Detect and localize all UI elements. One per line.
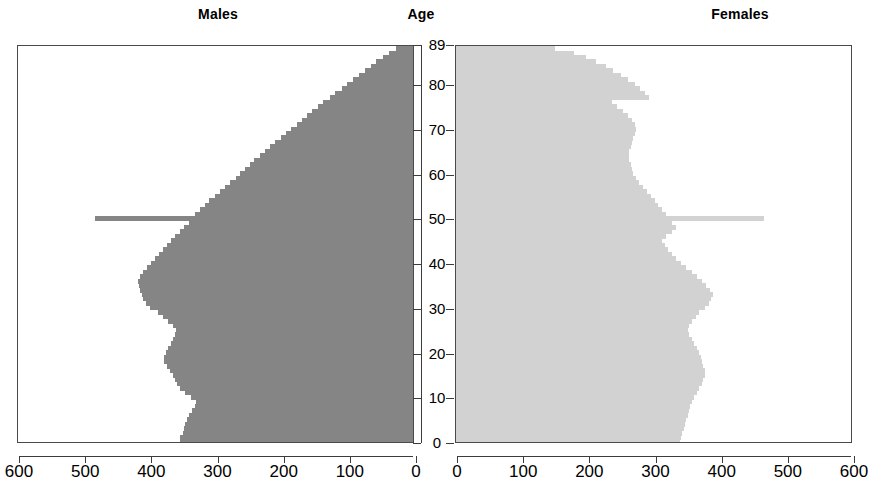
bar <box>456 64 606 69</box>
bar <box>220 189 413 194</box>
bar <box>456 189 647 194</box>
bar <box>189 413 413 418</box>
bar <box>371 64 413 69</box>
age-tick-label: 80 <box>425 77 449 92</box>
bar <box>456 288 710 293</box>
bar <box>192 408 413 413</box>
bar <box>456 68 613 73</box>
bar <box>456 113 628 118</box>
bar <box>456 319 692 324</box>
age-tick-label: 70 <box>425 122 449 137</box>
bar <box>456 332 689 337</box>
x-tick-label: 100 <box>493 462 553 482</box>
bar <box>456 243 665 248</box>
bar <box>456 86 640 91</box>
bar <box>376 59 413 64</box>
bar <box>456 305 705 310</box>
bar <box>456 283 706 288</box>
x-tick-label: 400 <box>121 462 181 482</box>
bar <box>359 73 413 78</box>
bar <box>151 261 413 266</box>
bar <box>456 225 676 230</box>
bar <box>456 408 689 413</box>
bar <box>456 46 535 47</box>
bar <box>183 431 413 436</box>
bar <box>225 185 413 190</box>
bar <box>456 314 696 319</box>
bar <box>147 265 413 270</box>
x-tick-label: 100 <box>320 462 380 482</box>
bar <box>456 82 635 87</box>
bar <box>139 283 413 288</box>
bar <box>184 225 413 230</box>
bar <box>180 229 413 234</box>
x-tick-label: 500 <box>758 462 818 482</box>
bar <box>270 144 413 149</box>
bar <box>456 77 628 82</box>
bar <box>185 390 413 395</box>
bar <box>312 109 413 114</box>
bar <box>143 270 413 275</box>
bar <box>456 73 621 78</box>
bar <box>456 341 694 346</box>
bar <box>456 180 639 185</box>
bar <box>330 95 413 100</box>
bar <box>456 55 586 60</box>
bar <box>456 368 705 373</box>
bar <box>163 314 413 319</box>
bar <box>456 252 672 257</box>
bar <box>456 185 643 190</box>
age-tick-label: 40 <box>425 256 449 271</box>
females-plot-area <box>455 45 852 443</box>
bar <box>456 158 629 163</box>
bar <box>142 292 413 297</box>
x-tick-label: 300 <box>188 462 248 482</box>
bar <box>456 390 697 395</box>
bar <box>164 355 413 360</box>
bar <box>456 162 631 167</box>
bar <box>365 68 413 73</box>
bar <box>240 171 413 176</box>
bar <box>347 82 413 87</box>
bar <box>200 207 413 212</box>
bar <box>171 341 413 346</box>
bar <box>140 288 413 293</box>
bar <box>456 292 713 297</box>
bar <box>236 176 413 181</box>
bar <box>163 247 413 252</box>
females-panel-title: Females <box>650 6 830 22</box>
bar <box>323 100 413 105</box>
bar <box>456 395 694 400</box>
bar <box>456 238 662 243</box>
bar <box>456 386 699 391</box>
age-tick-label: 60 <box>425 167 449 182</box>
females-bars <box>456 46 851 442</box>
bar <box>138 279 413 284</box>
age-axis-title: Age <box>398 6 444 22</box>
bar <box>171 238 413 243</box>
bar <box>456 46 555 51</box>
age-tick-label: 10 <box>425 390 449 405</box>
bar <box>146 301 413 306</box>
bar <box>456 346 697 351</box>
bar <box>456 95 649 100</box>
bar <box>456 91 645 96</box>
bar <box>456 381 702 386</box>
males-plot-area <box>17 45 414 443</box>
bar <box>456 270 692 275</box>
bar <box>456 153 629 158</box>
bar <box>167 364 413 369</box>
bar <box>168 319 413 324</box>
bar <box>170 368 413 373</box>
bar <box>404 46 413 47</box>
bar <box>184 426 413 431</box>
bar <box>456 229 672 234</box>
bar <box>456 372 705 377</box>
bar <box>456 399 692 404</box>
bar <box>456 261 681 266</box>
bar <box>456 100 612 105</box>
bar <box>195 212 413 217</box>
bar <box>158 310 413 315</box>
bar <box>456 310 699 315</box>
bar <box>215 194 414 199</box>
